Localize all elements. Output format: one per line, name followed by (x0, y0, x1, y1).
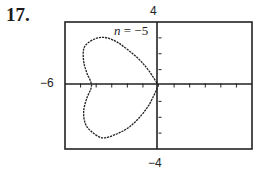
parameter-annotation: n = −5 (113, 23, 149, 39)
n-value: = −5 (121, 23, 149, 38)
polar-curve (83, 37, 158, 138)
